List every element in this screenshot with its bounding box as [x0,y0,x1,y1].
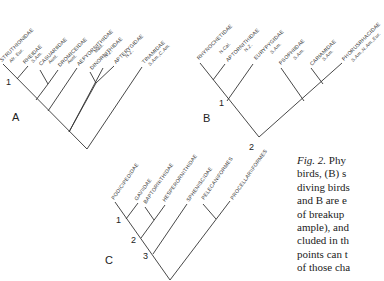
cladogram-b: RHYNOCHETIDAE N.Cal. APTORNITHIDAE N.Z. … [195,21,381,152]
branch [227,64,253,101]
caption-line: diving birds [297,181,384,194]
branch [200,63,259,137]
figure-caption: Fig. 2. Phy birds, (B) s diving birds an… [297,154,384,275]
node-number: 1 [116,215,121,225]
branch [203,204,216,219]
branch [69,66,114,132]
caption-line: of those cha [297,261,384,274]
panel-label-c: C [105,254,113,266]
branch [87,67,142,149]
branch [281,68,304,101]
caption-line: birds, (B) s [297,167,384,180]
branch [141,212,160,238]
branch [48,70,58,84]
caption-line: Fig. 2. Phy [297,154,384,167]
caption-line: and B are e [297,194,384,207]
cladogram-c: PODICIPEDIDAE GAVIIDAE BAPTORNITHIDAE HE… [105,148,268,280]
node-number: 2 [131,235,136,245]
branch [17,66,28,79]
branch [145,205,165,220]
phylogeny-figure: STRUTHIONIDAE Afr. Eur. RHEIDAE S.Am. CA… [0,0,384,281]
branch [126,203,138,219]
branch [259,63,342,137]
node-number: 3 [143,251,148,261]
taxon-label: PHORUSRHACIDAE [340,21,381,62]
branch [153,204,187,254]
caption-line: of breakup [297,208,384,221]
cladogram-a: STRUTHIONIDAE Afr. Eur. RHEIDAE S.Am. CA… [0,26,171,149]
caption-line: ample), and [297,221,384,234]
node-number: 2 [249,142,254,152]
node-number: 1 [6,77,11,87]
panel-label-a: A [12,111,20,123]
branch [213,64,225,80]
branch [48,68,77,111]
branch [3,64,87,149]
branch [36,70,48,100]
branch [311,68,323,84]
taxon-label: PROCELLARIIFORMES [229,148,268,201]
caption-line: points can t [297,248,384,261]
node-number: 1 [219,98,224,108]
branch [170,201,230,280]
panel-label-b: B [203,112,210,124]
caption-line: cluded in th [297,234,384,247]
